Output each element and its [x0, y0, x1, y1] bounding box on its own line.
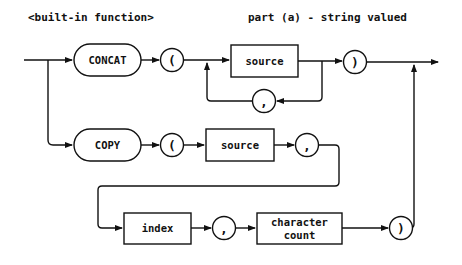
syntax-diagram: <built-in function> part (a) - string va… — [0, 0, 462, 265]
source-label: source — [246, 55, 284, 67]
copy-open-paren: ( — [161, 134, 184, 157]
copy-label: COPY — [95, 139, 121, 151]
svg-text:,: , — [303, 138, 311, 153]
character-label: character — [271, 216, 328, 228]
built-in-function-title: <built-in function> — [28, 11, 154, 24]
svg-text:): ) — [351, 55, 359, 70]
concat-open-paren: ( — [161, 49, 184, 72]
concat-label: CONCAT — [89, 54, 127, 66]
copy-comma-1: , — [296, 134, 319, 157]
copy-keyword: COPY — [74, 129, 141, 161]
svg-text:(: ( — [168, 53, 176, 68]
source-label: source — [221, 139, 259, 151]
concat-comma-separator: , — [253, 90, 276, 113]
copy-index-box: index — [124, 213, 191, 244]
count-label: count — [284, 229, 316, 241]
svg-text:): ) — [397, 221, 405, 236]
copy-close-paren: ) — [390, 217, 413, 240]
part-a-subtitle: part (a) - string valued — [248, 11, 407, 24]
index-label: index — [142, 222, 174, 234]
svg-text:,: , — [260, 94, 268, 109]
copy-comma-2: , — [213, 217, 236, 240]
svg-text:,: , — [220, 221, 228, 236]
concat-close-paren: ) — [344, 51, 367, 74]
svg-text:(: ( — [168, 138, 176, 153]
concat-source-box: source — [231, 45, 298, 77]
concat-keyword: CONCAT — [74, 44, 141, 76]
copy-source-box: source — [206, 129, 274, 161]
copy-character-count-box: character count — [257, 213, 342, 244]
